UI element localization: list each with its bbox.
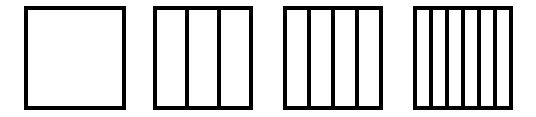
fraction-squares-diagram	[0, 0, 536, 117]
divided-square-1	[26, 8, 124, 108]
square-outline	[155, 8, 251, 108]
square-outline	[26, 8, 124, 108]
divided-square-3	[285, 8, 381, 108]
divided-square-2	[155, 8, 251, 108]
divided-square-4	[415, 8, 511, 108]
